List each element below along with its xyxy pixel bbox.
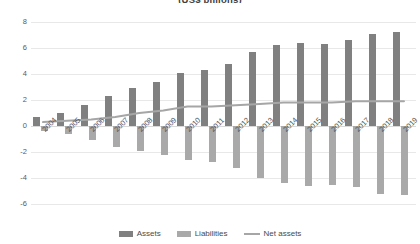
legend-label-assets: Assets bbox=[137, 229, 161, 238]
x-axis-labels: 2004200520062007200820092010201120122013… bbox=[31, 128, 416, 188]
legend-item-net-assets: Net assets bbox=[244, 229, 302, 238]
y-tick-label-0: 0 bbox=[5, 122, 27, 130]
y-tick-label--4: -4 bbox=[5, 174, 27, 182]
y-tick-label--6: -6 bbox=[5, 200, 27, 208]
chart-legend: Assets Liabilities Net assets bbox=[0, 229, 420, 238]
legend-swatch-net-assets bbox=[244, 233, 260, 235]
y-tick-label-2: 2 bbox=[5, 96, 27, 104]
legend-label-liabilities: Liabilities bbox=[195, 229, 228, 238]
legend-item-liabilities: Liabilities bbox=[177, 229, 228, 238]
legend-swatch-assets bbox=[119, 231, 133, 237]
legend-label-net-assets: Net assets bbox=[264, 229, 302, 238]
chart-container: (US$ billions) 86420-2-4-6 2004200520062… bbox=[0, 0, 420, 244]
legend-item-assets: Assets bbox=[119, 229, 161, 238]
legend-swatch-liabilities bbox=[177, 231, 191, 237]
y-tick-label--2: -2 bbox=[5, 148, 27, 156]
chart-title: (US$ billions) bbox=[0, 0, 420, 3]
y-axis-labels: 86420-2-4-6 bbox=[0, 22, 27, 204]
gridline--6 bbox=[31, 204, 416, 205]
y-tick-label-4: 4 bbox=[5, 70, 27, 78]
y-tick-label-8: 8 bbox=[5, 18, 27, 26]
y-tick-label-6: 6 bbox=[5, 44, 27, 52]
